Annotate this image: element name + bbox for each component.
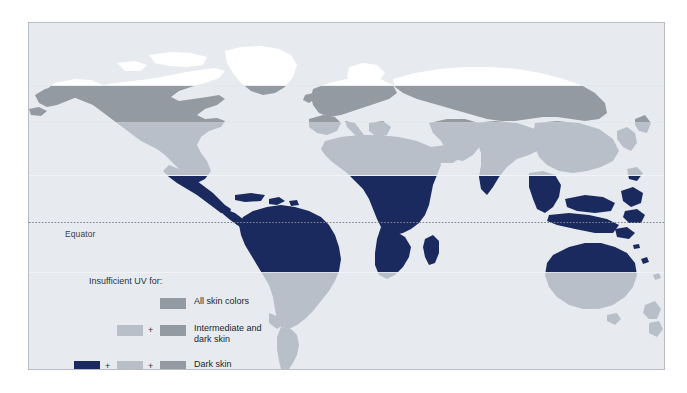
legend-swatch-intermediate-2 <box>117 361 143 370</box>
legend-title: Insufficient UV for: <box>89 276 319 286</box>
legend-swatch-dark-skin <box>74 361 100 370</box>
map-legend: Insufficient UV for: All skin colors + I… <box>89 276 319 370</box>
legend-plus-3: + <box>148 360 153 370</box>
legend-label-dark-skin: Dark skin <box>194 359 232 370</box>
equator-label: Equator <box>65 229 95 239</box>
legend-plus-1: + <box>148 324 153 337</box>
legend-swatch-intermediate <box>117 325 143 336</box>
legend-row-dark-skin: + + Dark skin <box>89 360 319 370</box>
legend-label-intermediate-dark-skin: Intermediate and dark skin <box>194 323 262 344</box>
legend-swatch-all-skin-colors-3 <box>160 361 186 370</box>
world-map-panel: Equator Insufficient UV for: All skin co… <box>28 22 665 370</box>
legend-label-all-skin-colors: All skin colors <box>194 296 249 307</box>
legend-swatch-all-skin-colors <box>160 298 186 309</box>
screenshot-root: Equator Insufficient UV for: All skin co… <box>0 0 687 393</box>
legend-plus-2: + <box>105 360 110 370</box>
legend-row-all-skin-colors: All skin colors <box>89 297 319 312</box>
legend-row-intermediate-dark-skin: + Intermediate and dark skin <box>89 324 319 348</box>
legend-swatch-all-skin-colors-2 <box>160 325 186 336</box>
